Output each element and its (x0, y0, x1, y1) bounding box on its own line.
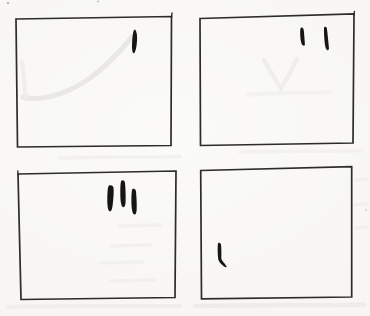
panel-bottom-right (201, 167, 352, 299)
panel-top-left-outline (16, 17, 172, 148)
bleed-through-smudge (8, 306, 180, 307)
bleed-through-smudge (60, 157, 180, 159)
faint-pencil-curve (23, 37, 132, 98)
scan-speck (7, 2, 9, 4)
tally-stroke (218, 243, 227, 268)
panel-bottom-right-outline (201, 167, 352, 299)
faint-pencil-curve (22, 62, 26, 97)
bleed-through-smudge (355, 204, 367, 205)
bleed-through-smudge (356, 179, 366, 180)
faint-pencil-vee (264, 59, 297, 88)
panel-top-left (16, 13, 172, 147)
scanned-document-page (0, 0, 370, 316)
bleed-through-smudge (110, 280, 156, 281)
tally-stroke (131, 189, 136, 215)
tally-stroke (107, 185, 113, 211)
bleed-through-smudge (356, 227, 366, 228)
tally-stroke (120, 180, 125, 207)
bleed-through-smudge (112, 245, 150, 246)
scan-speck (365, 209, 367, 211)
bleed-through-smudge (120, 225, 160, 226)
bleed-through-smudge (100, 262, 142, 263)
bleed-through-smudge (248, 92, 330, 95)
bleed-through-smudge (240, 151, 362, 153)
tally-stroke (300, 28, 305, 46)
tally-stroke (132, 29, 137, 53)
scan-speck (97, 1, 99, 3)
tally-stroke (324, 27, 329, 51)
figure-canvas (0, 0, 370, 316)
four-panel-tally-figure (0, 0, 370, 316)
corner-overshoot-stroke (172, 13, 173, 18)
panel-top-right (200, 12, 354, 146)
bleed-through-smudge (195, 305, 364, 307)
